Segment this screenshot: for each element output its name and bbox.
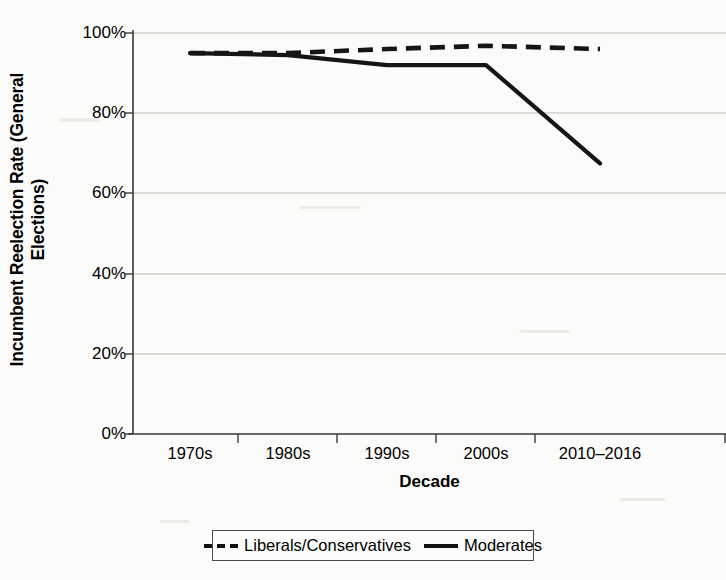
legend-swatch-solid-icon [424,544,458,548]
x-tick-label-2000s: 2000s [464,444,509,463]
legend-item-moderates[interactable]: Moderates [424,536,542,555]
x-tick-label-1980s: 1980s [266,444,311,463]
legend-item-liberals-conservatives[interactable]: Liberals/Conservatives [204,536,411,555]
legend-label-liberals-conservatives: Liberals/Conservatives [244,536,411,555]
x-axis-title: Decade [133,472,726,492]
legend-label-moderates: Moderates [464,536,542,555]
legend-swatch-dashed-icon [204,544,238,548]
chart-legend: Liberals/Conservatives Moderates [212,530,534,561]
plot-area [0,0,726,580]
series-line-liberals-conservatives [190,46,600,53]
series-line-moderates [190,53,600,163]
x-tick-label-2010-2016: 2010–2016 [559,444,642,463]
x-tick-label-1990s: 1990s [365,444,410,463]
chart-figure: Incumbent Reelection Rate (General Elect… [0,0,726,580]
x-tick-label-1970s: 1970s [168,444,213,463]
